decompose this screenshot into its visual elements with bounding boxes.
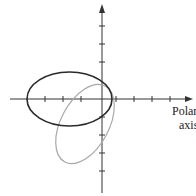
polar-axis-label-line1: Polar (172, 104, 196, 118)
vertical-axis-arrow-icon (99, 4, 105, 13)
polar-diagram (0, 0, 196, 196)
polar-axis-label-line2: axis (172, 118, 196, 132)
polar-axis-label: Polar axis (172, 104, 196, 132)
polar-axis-arrow-icon (185, 96, 193, 102)
